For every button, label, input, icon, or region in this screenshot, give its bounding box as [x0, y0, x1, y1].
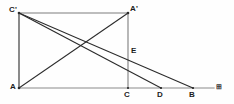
geometry-figure: C' A' A C D B E ⊞ — [0, 0, 234, 104]
vertex-dot-D — [160, 87, 162, 89]
segment-ray-Cprime-B — [19, 13, 193, 88]
vertex-dot-B — [192, 87, 194, 89]
point-label-A: A — [10, 82, 16, 91]
point-label-D: D — [157, 90, 163, 99]
point-label-B: B — [189, 90, 195, 99]
point-label-C: C — [124, 90, 130, 99]
vertex-dot-Cprime — [18, 12, 21, 15]
point-label-Aprime: A' — [130, 4, 138, 13]
vertex-dot-A — [18, 87, 21, 90]
vertex-dot-C — [127, 87, 129, 89]
point-label-E: E — [131, 46, 137, 55]
point-label-Cprime: C' — [9, 5, 17, 14]
baseline-end-marker-icon: ⊞ — [216, 83, 222, 91]
vertex-dot-Aprime — [127, 12, 130, 15]
figure-canvas — [0, 0, 234, 104]
segment-ray-Cprime-D — [19, 13, 161, 88]
segment-diagonal-A-Aprime — [19, 13, 128, 88]
